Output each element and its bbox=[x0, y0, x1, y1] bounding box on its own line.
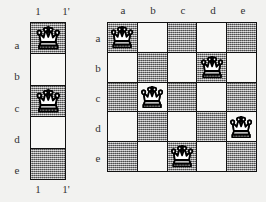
right-board: a b c d e a b c d e bbox=[96, 0, 266, 202]
square-1c[interactable] bbox=[31, 86, 65, 116]
left-board-grid bbox=[30, 22, 66, 180]
right-board-file-label-c: c bbox=[175, 5, 191, 16]
left-board-rank-label-e: e bbox=[10, 165, 24, 176]
queen-crown-icon bbox=[229, 115, 253, 139]
right-board-grid bbox=[107, 22, 257, 172]
square-da[interactable] bbox=[197, 23, 226, 52]
square-ad[interactable] bbox=[108, 112, 137, 141]
square-ab[interactable] bbox=[108, 53, 137, 82]
right-board-file-label-d: d bbox=[205, 5, 221, 16]
left-board-bottom-label-1: 1 bbox=[30, 184, 46, 195]
left-board-top-label-1-prime: 1' bbox=[58, 6, 74, 17]
square-dc[interactable] bbox=[197, 83, 226, 112]
left-board-rank-label-a: a bbox=[10, 40, 24, 51]
square-ac[interactable] bbox=[108, 83, 137, 112]
square-bd[interactable] bbox=[138, 112, 167, 141]
square-eb[interactable] bbox=[227, 53, 256, 82]
square-be[interactable] bbox=[138, 142, 167, 171]
square-1a[interactable] bbox=[31, 23, 65, 53]
right-board-file-label-a: a bbox=[115, 5, 131, 16]
square-cb[interactable] bbox=[168, 53, 197, 82]
square-ee[interactable] bbox=[227, 142, 256, 171]
square-db[interactable] bbox=[197, 53, 226, 82]
square-aa[interactable] bbox=[108, 23, 137, 52]
left-board-top-label-1: 1 bbox=[30, 6, 46, 17]
square-1d[interactable] bbox=[31, 117, 65, 147]
right-board-rank-label-e: e bbox=[91, 153, 105, 164]
square-de[interactable] bbox=[197, 142, 226, 171]
queen-crown-icon bbox=[34, 25, 63, 51]
queen-crown-icon bbox=[200, 55, 224, 79]
right-board-rank-label-a: a bbox=[91, 33, 105, 44]
right-board-file-label-b: b bbox=[145, 5, 161, 16]
square-cd[interactable] bbox=[168, 112, 197, 141]
chess-diagram-figure: 1 1' 1 1' a b c d e a b c d e a b c d e bbox=[0, 0, 266, 202]
square-bb[interactable] bbox=[138, 53, 167, 82]
square-cc[interactable] bbox=[168, 83, 197, 112]
square-1e[interactable] bbox=[31, 149, 65, 179]
queen-crown-icon bbox=[140, 85, 164, 109]
square-ed[interactable] bbox=[227, 112, 256, 141]
right-board-file-label-e: e bbox=[235, 5, 251, 16]
left-board-bottom-label-1-prime: 1' bbox=[58, 184, 74, 195]
square-ce[interactable] bbox=[168, 142, 197, 171]
queen-crown-icon bbox=[34, 88, 63, 114]
left-board-rank-label-b: b bbox=[10, 71, 24, 82]
right-board-rank-label-c: c bbox=[91, 93, 105, 104]
queen-crown-icon bbox=[170, 144, 194, 168]
right-board-rank-label-b: b bbox=[91, 63, 105, 74]
square-ae[interactable] bbox=[108, 142, 137, 171]
square-1b[interactable] bbox=[31, 54, 65, 84]
square-dd[interactable] bbox=[197, 112, 226, 141]
square-ba[interactable] bbox=[138, 23, 167, 52]
square-ea[interactable] bbox=[227, 23, 256, 52]
left-board-rank-label-d: d bbox=[10, 134, 24, 145]
right-board-rank-label-d: d bbox=[91, 123, 105, 134]
left-board-rank-label-c: c bbox=[10, 103, 24, 114]
square-ca[interactable] bbox=[168, 23, 197, 52]
left-board: 1 1' 1 1' a b c d e bbox=[0, 0, 96, 202]
queen-crown-icon bbox=[110, 25, 134, 49]
square-bc[interactable] bbox=[138, 83, 167, 112]
square-ec[interactable] bbox=[227, 83, 256, 112]
